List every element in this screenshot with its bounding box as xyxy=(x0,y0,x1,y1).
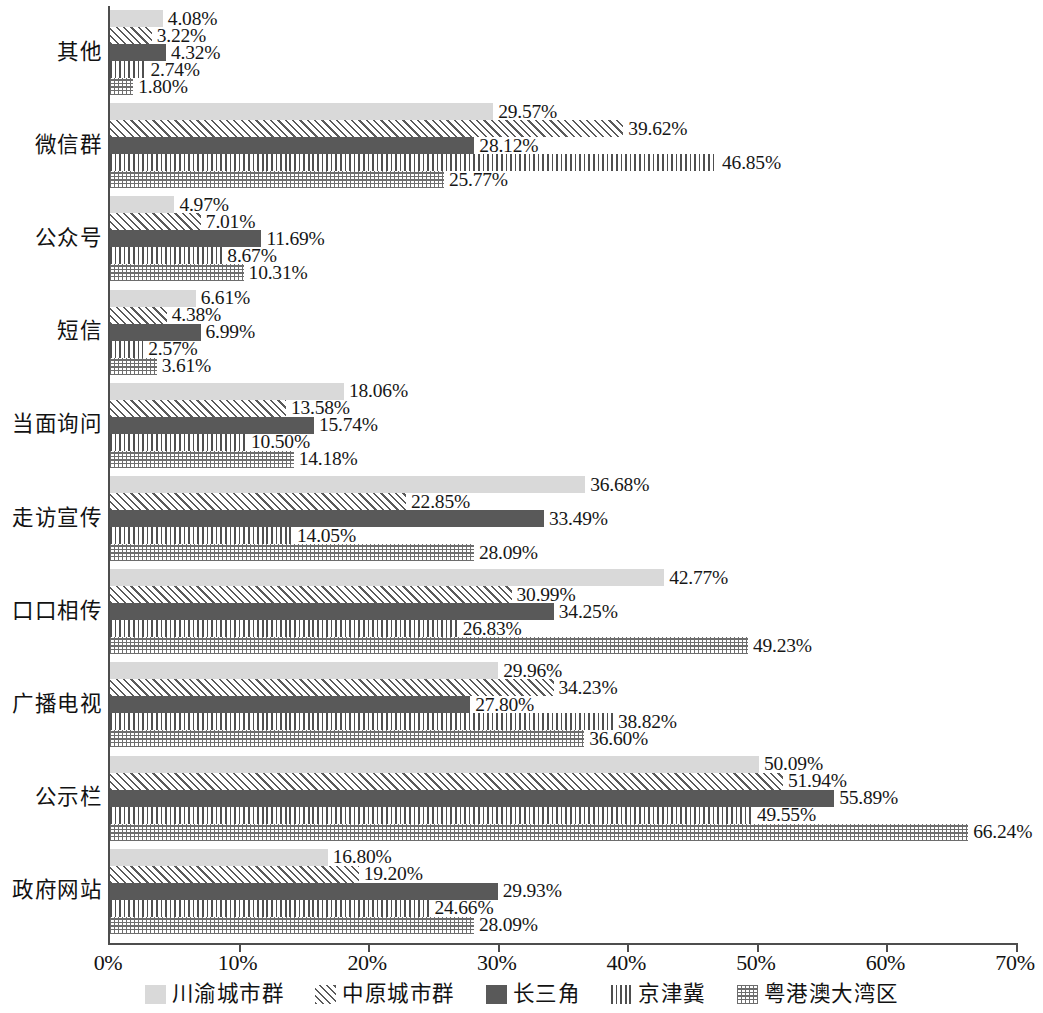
bar[interactable] xyxy=(110,434,246,451)
bar-value-label: 29.93% xyxy=(503,881,562,901)
bar[interactable] xyxy=(110,247,222,264)
bar[interactable] xyxy=(110,451,294,468)
legend-item[interactable]: 京津冀 xyxy=(611,984,706,1006)
legend-item[interactable]: 粤港澳大湾区 xyxy=(737,984,899,1006)
legend-label: 中原城市群 xyxy=(342,984,455,1006)
bar-value-label: 1.80% xyxy=(138,76,187,96)
legend-item[interactable]: 中原城市群 xyxy=(315,984,455,1006)
bar[interactable] xyxy=(110,773,783,790)
bar-row: 16.80% xyxy=(110,849,1017,866)
bar-row: 50.09% xyxy=(110,756,1017,773)
bar[interactable] xyxy=(110,27,152,44)
bar[interactable] xyxy=(110,493,406,510)
bar[interactable] xyxy=(110,866,359,883)
bar-value-label: 36.60% xyxy=(589,729,648,749)
bar[interactable] xyxy=(110,569,664,586)
bar[interactable] xyxy=(110,544,474,561)
bar[interactable] xyxy=(110,171,444,188)
bar-row: 26.83% xyxy=(110,620,1017,637)
bar[interactable] xyxy=(110,917,474,934)
bar[interactable] xyxy=(110,824,968,841)
bar-value-label: 3.61% xyxy=(162,356,211,376)
bar[interactable] xyxy=(110,213,201,230)
bar-value-label: 42.77% xyxy=(669,568,728,588)
bar[interactable] xyxy=(110,358,157,375)
bar-value-label: 25.77% xyxy=(449,170,508,190)
bar-row: 34.25% xyxy=(110,603,1017,620)
x-axis-tick-label: 20% xyxy=(322,952,412,974)
bar-row: 55.89% xyxy=(110,790,1017,807)
bar-value-label: 15.74% xyxy=(319,415,378,435)
category-label: 广播电视 xyxy=(6,694,102,716)
bar[interactable] xyxy=(110,103,493,120)
legend-swatch-icon xyxy=(611,985,632,1004)
bar[interactable] xyxy=(110,620,458,637)
bar[interactable] xyxy=(110,900,430,917)
bar-row: 28.12% xyxy=(110,137,1017,154)
bar-value-label: 55.89% xyxy=(839,788,898,808)
category-label: 口口相传 xyxy=(6,601,102,623)
x-axis-tick-label: 0% xyxy=(63,952,153,974)
legend-item[interactable]: 长三角 xyxy=(486,984,581,1006)
bar[interactable] xyxy=(110,586,512,603)
bar-row: 7.01% xyxy=(110,213,1017,230)
bar-row: 66.24% xyxy=(110,824,1017,841)
bar-row: 3.61% xyxy=(110,358,1017,375)
legend-swatch-icon xyxy=(737,985,758,1004)
bar[interactable] xyxy=(110,307,167,324)
bar[interactable] xyxy=(110,790,834,807)
bar[interactable] xyxy=(110,756,759,773)
bar-value-label: 29.57% xyxy=(498,102,557,122)
bar[interactable] xyxy=(110,10,163,27)
legend-swatch-icon xyxy=(486,985,507,1004)
bar[interactable] xyxy=(110,807,752,824)
bar-row: 13.58% xyxy=(110,400,1017,417)
bar-row: 36.68% xyxy=(110,476,1017,493)
legend-label: 长三角 xyxy=(513,984,581,1006)
bar-row: 34.23% xyxy=(110,679,1017,696)
bar-value-label: 28.09% xyxy=(479,915,538,935)
category-label: 公示栏 xyxy=(6,787,102,809)
bar-row: 18.06% xyxy=(110,383,1017,400)
bar[interactable] xyxy=(110,662,498,679)
bar[interactable] xyxy=(110,400,286,417)
bar[interactable] xyxy=(110,730,584,747)
bar-row: 28.09% xyxy=(110,917,1017,934)
bar[interactable] xyxy=(110,696,470,713)
bar[interactable] xyxy=(110,849,328,866)
bar[interactable] xyxy=(110,264,244,281)
bar[interactable] xyxy=(110,154,717,171)
horizontal-grouped-bar-chart: 其他4.08%3.22%4.32%2.74%1.80%微信群29.57%39.6… xyxy=(0,0,1043,1013)
bar-group: 当面询问18.06%13.58%15.74%10.50%14.18% xyxy=(110,379,1017,472)
bar[interactable] xyxy=(110,137,474,154)
bar-row: 25.77% xyxy=(110,171,1017,188)
chart-legend: 川渝城市群中原城市群长三角京津冀粤港澳大湾区 xyxy=(0,984,1043,1006)
bar[interactable] xyxy=(110,120,623,137)
bar-row: 19.20% xyxy=(110,866,1017,883)
bar-value-label: 39.62% xyxy=(628,119,687,139)
bar-row: 28.09% xyxy=(110,544,1017,561)
bar-group: 广播电视29.96%34.23%27.80%38.82%36.60% xyxy=(110,658,1017,751)
bar[interactable] xyxy=(110,527,292,544)
category-label: 其他 xyxy=(6,42,102,64)
bar-value-label: 66.24% xyxy=(973,822,1032,842)
bar-row: 4.32% xyxy=(110,44,1017,61)
bar[interactable] xyxy=(110,341,143,358)
category-label: 短信 xyxy=(6,321,102,343)
bar-row: 29.93% xyxy=(110,883,1017,900)
bar[interactable] xyxy=(110,196,174,213)
category-label: 政府网站 xyxy=(6,880,102,902)
bar-row: 6.99% xyxy=(110,324,1017,341)
bar[interactable] xyxy=(110,78,133,95)
legend-item[interactable]: 川渝城市群 xyxy=(145,984,285,1006)
bar-group: 其他4.08%3.22%4.32%2.74%1.80% xyxy=(110,6,1017,99)
bar[interactable] xyxy=(110,476,585,493)
bar[interactable] xyxy=(110,637,748,654)
bar-row: 14.05% xyxy=(110,527,1017,544)
x-axis-tick-label: 30% xyxy=(452,952,542,974)
bar-row: 10.50% xyxy=(110,434,1017,451)
bar-value-label: 49.23% xyxy=(753,636,812,656)
bar[interactable] xyxy=(110,713,613,730)
bar-row: 1.80% xyxy=(110,78,1017,95)
bar-row: 2.74% xyxy=(110,61,1017,78)
